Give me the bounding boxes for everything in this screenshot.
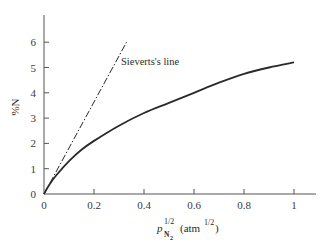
x-tick-label: 0 <box>41 199 47 211</box>
svg-text:2: 2 <box>170 235 173 241</box>
chart: 012345600.20.40.60.81Sieverts's line%Np1… <box>0 0 329 246</box>
labels-group: 012345600.20.40.60.81Sieverts's line%Np1… <box>9 36 297 241</box>
x-tick-label: 0.4 <box>137 199 151 211</box>
y-tick-label: 6 <box>31 36 37 48</box>
axes <box>44 15 316 194</box>
x-axis-title: p1/2N2(atm1/2) <box>156 217 219 241</box>
solubility-curve <box>44 62 294 194</box>
y-axis-title: %N <box>9 98 21 115</box>
y-tick-label: 4 <box>31 87 37 99</box>
y-tick-label: 1 <box>31 163 37 175</box>
x-tick-label: 0.8 <box>237 199 251 211</box>
sieverts-line-label: Sieverts's line <box>121 56 180 67</box>
svg-text:(atm: (atm <box>180 222 201 235</box>
x-tick-label: 0.6 <box>187 199 201 211</box>
y-tick-label: 3 <box>31 112 37 124</box>
x-tick-label: 1 <box>291 199 297 211</box>
x-tick-label: 0.2 <box>87 199 101 211</box>
svg-text:p: p <box>156 222 163 234</box>
y-tick-label: 0 <box>31 188 37 200</box>
svg-text:): ) <box>215 222 219 235</box>
sieverts-line <box>44 42 127 194</box>
y-tick-label: 5 <box>31 62 37 74</box>
svg-text:1/2: 1/2 <box>204 218 214 227</box>
y-tick-label: 2 <box>31 137 37 149</box>
svg-text:1/2: 1/2 <box>164 217 174 226</box>
